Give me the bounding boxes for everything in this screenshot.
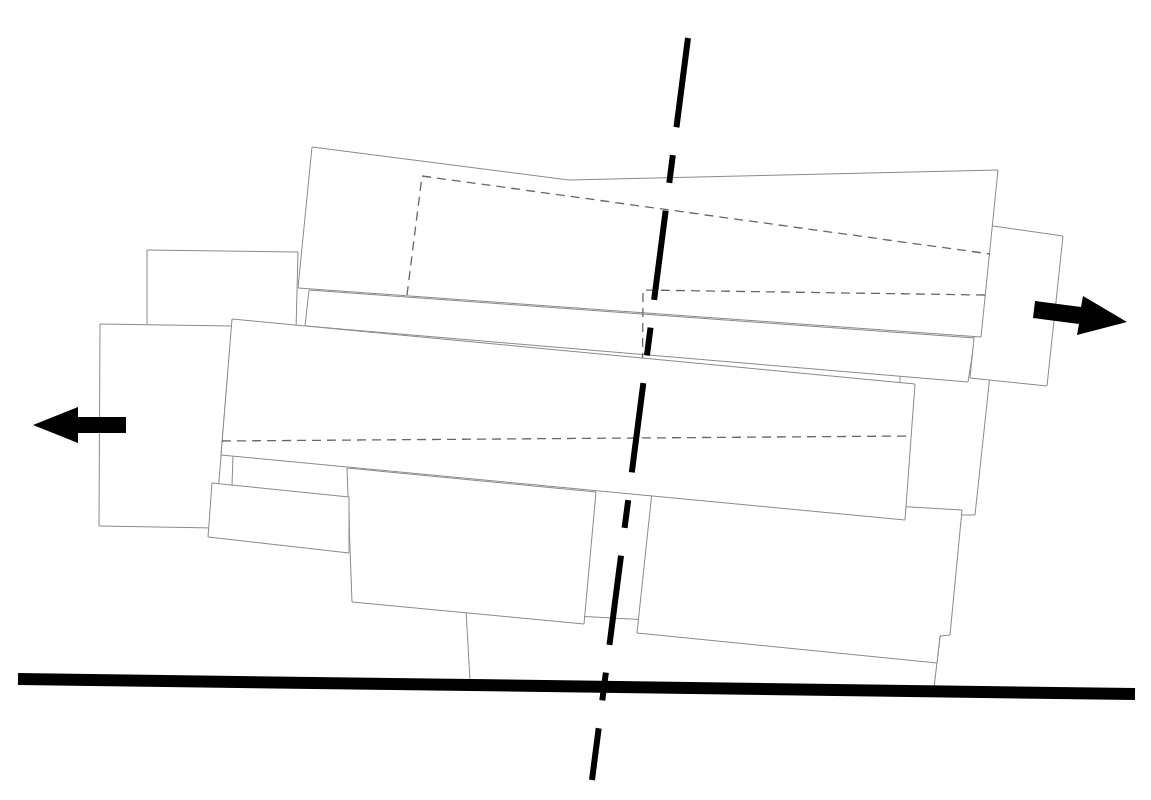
lower-left-small-block — [208, 483, 349, 553]
ground-line — [18, 679, 1135, 694]
upper-left-block — [147, 250, 298, 330]
lower-right-block — [637, 492, 962, 663]
diagram-canvas — [0, 0, 1151, 800]
massing-diagram — [0, 0, 1151, 800]
lower-center-block — [347, 468, 596, 624]
connector-line — [232, 455, 233, 486]
right-mid-block — [900, 360, 990, 515]
